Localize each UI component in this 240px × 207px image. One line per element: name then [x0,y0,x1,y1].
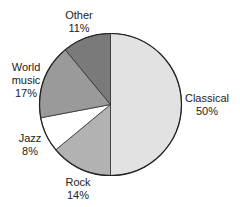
label-rock-name: Rock [60,176,96,189]
label-jazz-pct: 8% [14,145,46,158]
label-classical: Classical 50% [184,92,230,118]
label-other-name: Other [62,9,96,22]
label-classical-name: Classical [184,92,230,105]
label-rock-pct: 14% [60,189,96,202]
label-jazz-name: Jazz [14,132,46,145]
label-world-music-line2: music [8,74,44,87]
label-world-music: World music 17% [8,61,44,100]
label-classical-pct: 50% [184,105,230,118]
label-world-music-line1: World [8,61,44,74]
label-world-music-pct: 17% [8,87,44,100]
label-jazz: Jazz 8% [14,132,46,158]
label-other-pct: 11% [62,22,96,35]
pie-slice-classical [111,34,182,176]
label-rock: Rock 14% [60,176,96,202]
label-other: Other 11% [62,9,96,35]
